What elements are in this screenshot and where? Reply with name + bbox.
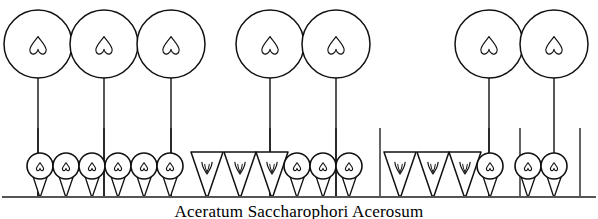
understory-unit-u6 [157,153,183,196]
understory-unit-u5 [131,153,157,196]
sapling-circle [53,153,79,179]
understory-unit-u18 [541,153,567,196]
tree-crown-3 [137,10,205,78]
understory-unit-u2 [53,153,79,196]
sapling-circle [27,153,53,179]
crown-circle [455,10,523,78]
tree-crown-1 [4,10,72,78]
sapling-circle [284,153,310,179]
figure-caption: Aceratum Saccharophori Acerosum [0,202,598,219]
tree-canopy-layer [4,10,588,78]
understory-unit-u15 [449,152,481,196]
understory-unit-u8 [224,152,256,196]
crown-circle [520,10,588,78]
sapling-circle [310,153,336,179]
crown-circle [137,10,205,78]
understory-unit-u14 [417,152,449,196]
tree-crown-5 [302,10,370,78]
sapling-circle [541,153,567,179]
sapling-circle [131,153,157,179]
understory-unit-u16 [477,153,503,196]
vegetation-diagram-canvas [0,0,598,219]
crown-circle [236,10,304,78]
understory-unit-u1 [27,153,53,196]
sapling-circle [105,153,131,179]
tree-crown-7 [520,10,588,78]
crown-circle [302,10,370,78]
sapling-circle [336,153,362,179]
crown-circle [70,10,138,78]
sapling-circle [477,153,503,179]
understory-unit-u3 [79,153,105,196]
sapling-circle [515,153,541,179]
sapling-circle [79,153,105,179]
tree-crown-4 [236,10,304,78]
understory-unit-u11 [310,153,336,196]
understory-unit-u10 [284,153,310,196]
understory-unit-u4 [105,153,131,196]
crown-circle [4,10,72,78]
vegetation-profile-figure: Aceratum Saccharophori Acerosum [0,0,598,219]
understory-unit-u17 [515,153,541,196]
understory-layer [27,152,567,196]
understory-unit-u13 [384,152,416,196]
understory-unit-u7 [191,152,223,196]
understory-unit-u12 [336,153,362,196]
tree-crown-6 [455,10,523,78]
tree-crown-2 [70,10,138,78]
sapling-circle [157,153,183,179]
understory-unit-u9 [256,152,288,196]
